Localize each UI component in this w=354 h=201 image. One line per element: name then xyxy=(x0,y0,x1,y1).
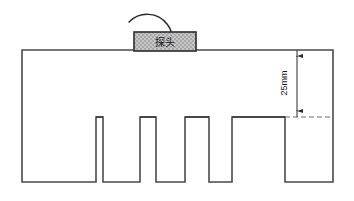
probe-body xyxy=(134,32,196,51)
diagram-canvas: 探头 25mm xyxy=(0,0,354,201)
probe-cable-icon xyxy=(129,14,171,32)
dimension-label-25mm: 25mm xyxy=(261,76,307,90)
technical-drawing xyxy=(0,0,354,201)
